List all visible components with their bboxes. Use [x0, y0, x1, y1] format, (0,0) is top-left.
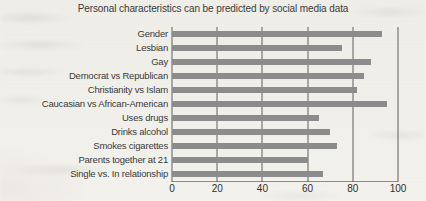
category-label: Gender — [0, 27, 168, 41]
bar-row — [172, 27, 398, 41]
category-label: Gay — [0, 55, 168, 69]
bars — [172, 27, 398, 181]
category-label: Uses drugs — [0, 111, 168, 125]
x-axis-tick-labels: 020406080100 — [172, 183, 398, 197]
bar-row — [172, 111, 398, 125]
bar — [172, 171, 323, 177]
bar-row — [172, 69, 398, 83]
bar-row — [172, 41, 398, 55]
category-label: Lesbian — [0, 41, 168, 55]
category-label: Single vs. In relationship — [0, 167, 168, 181]
bar — [172, 143, 337, 149]
plot-area — [172, 27, 398, 182]
x-tick-label: 20 — [212, 183, 223, 194]
x-tick-label: 100 — [390, 183, 407, 194]
bar-row — [172, 139, 398, 153]
category-label: Caucasian vs African-American — [0, 97, 168, 111]
bar-row — [172, 83, 398, 97]
scanned-chart-page: Personal characteristics can be predicte… — [0, 0, 426, 201]
bar-row — [172, 125, 398, 139]
chart-title: Personal characteristics can be predicte… — [0, 3, 426, 14]
bar — [172, 59, 371, 65]
category-label: Drinks alcohol — [0, 125, 168, 139]
category-label: Democrat vs Republican — [0, 69, 168, 83]
bar — [172, 115, 319, 121]
bar-row — [172, 153, 398, 167]
category-label: Christianity vs Islam — [0, 83, 168, 97]
bar-row — [172, 97, 398, 111]
category-label: Parents together at 21 — [0, 153, 168, 167]
bar — [172, 73, 364, 79]
bar — [172, 31, 382, 37]
category-labels: GenderLesbianGayDemocrat vs RepublicanCh… — [0, 27, 168, 181]
x-tick-label: 60 — [302, 183, 313, 194]
bar — [172, 45, 342, 51]
bar — [172, 157, 308, 163]
bar-row — [172, 55, 398, 69]
x-tick-label: 40 — [257, 183, 268, 194]
bar — [172, 129, 330, 135]
bar — [172, 101, 387, 107]
bar-row — [172, 167, 398, 181]
category-label: Smokes cigarettes — [0, 139, 168, 153]
x-tick-label: 0 — [169, 183, 175, 194]
x-tick-label: 80 — [347, 183, 358, 194]
bar — [172, 87, 357, 93]
